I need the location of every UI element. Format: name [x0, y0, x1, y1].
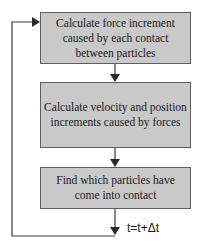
step-2-box: Calculate velocity and position incremen…	[40, 82, 191, 148]
step-1-box: Calculate force increment caused by each…	[40, 12, 191, 64]
step-3-text: Find which particles have come into cont…	[44, 173, 187, 203]
loop-label: t=t+Δt	[127, 221, 159, 235]
step-3-box: Find which particles have come into cont…	[40, 167, 191, 209]
flowchart: Calculate force increment caused by each…	[0, 0, 202, 250]
step-2-text: Calculate velocity and position incremen…	[44, 100, 187, 130]
step-1-text: Calculate force increment caused by each…	[44, 16, 187, 61]
